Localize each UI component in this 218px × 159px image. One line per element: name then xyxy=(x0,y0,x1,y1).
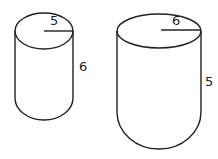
right-radius-label: 6 xyxy=(172,13,180,28)
left-radius-label: 5 xyxy=(50,13,58,28)
right-solid xyxy=(117,14,201,149)
left-height-label: 6 xyxy=(79,59,87,74)
right-top-ellipse xyxy=(117,14,201,48)
right-height-label: 5 xyxy=(205,74,213,89)
left-solid xyxy=(15,13,73,120)
diagram-canvas: 5 6 6 5 xyxy=(0,0,218,159)
